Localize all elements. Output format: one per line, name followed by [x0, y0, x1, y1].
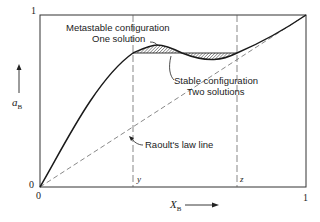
y-tick-0: 0: [29, 180, 34, 190]
stable-label-line2: Two solutions: [187, 87, 245, 97]
z-marker-label: z: [240, 174, 244, 184]
right-arrow-icon: [212, 203, 219, 208]
stable-label-line1: Stable configuration: [174, 76, 258, 86]
y-axis-subscript: B: [18, 103, 23, 111]
y-axis-label: aB: [12, 97, 22, 112]
metastable-label-line2: One solution: [92, 34, 145, 44]
x-tick-1: 1: [303, 193, 308, 203]
x-axis-subscript: B: [177, 205, 182, 213]
x-axis-symbol: X: [170, 198, 177, 210]
diagram-canvas: [0, 0, 320, 222]
metastable-label-line1: Metastable configuration: [66, 23, 170, 33]
y-marker-label: y: [137, 174, 141, 184]
up-arrow-icon: [17, 64, 22, 70]
raoult-law-line: [40, 15, 306, 187]
x-axis-label: XB: [170, 199, 181, 214]
raoult-label: Raoult's law line: [145, 140, 213, 150]
y-tick-1: 1: [31, 6, 36, 16]
x-tick-0: 0: [36, 191, 41, 201]
